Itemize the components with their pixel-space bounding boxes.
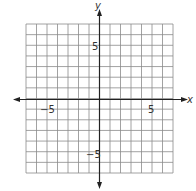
y-axis-down-arrow-icon [97, 182, 102, 189]
y-axis-label: y [94, 0, 102, 11]
x-axis-label: x [186, 94, 193, 105]
y-tick-label-pos5: 5 [92, 41, 98, 52]
x-tick-label-pos5: 5 [148, 104, 154, 115]
x-tick-label-neg5: −5 [40, 104, 55, 115]
x-axis-left-arrow-icon [13, 97, 20, 102]
y-tick-label-neg5: −5 [86, 149, 101, 160]
coordinate-plane: x y −5 5 5 −5 [0, 0, 196, 191]
